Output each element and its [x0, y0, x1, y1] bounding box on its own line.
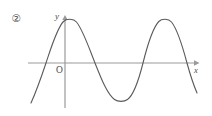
figure-container: ② y x O — [0, 0, 212, 116]
graph-canvas — [0, 0, 212, 116]
y-axis-label: y — [55, 12, 59, 21]
item-number-label: ② — [9, 11, 24, 26]
sine-curve — [31, 19, 197, 103]
x-axis-label: x — [194, 66, 198, 75]
origin-label: O — [56, 65, 63, 75]
